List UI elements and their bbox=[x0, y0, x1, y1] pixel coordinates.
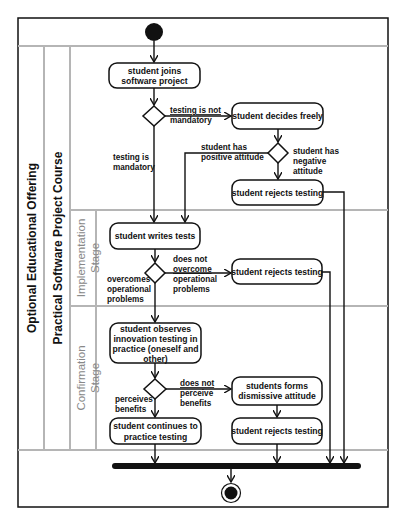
guard-label: student has bbox=[293, 147, 339, 156]
action-label: student rejects testing bbox=[232, 188, 324, 198]
guard-label: problems bbox=[173, 285, 210, 294]
guard-label: overcomes bbox=[107, 275, 151, 284]
guard-label: perceive bbox=[180, 389, 214, 398]
guard-label: testing is not bbox=[170, 106, 221, 115]
action-label: students forms bbox=[246, 381, 308, 391]
guard-label: benefits bbox=[180, 399, 212, 408]
action-label: student decides freely bbox=[232, 111, 323, 121]
action-label: other) bbox=[143, 354, 167, 364]
action-label: practice testing bbox=[124, 432, 188, 442]
stage-confirmation-label-1: Confirmation bbox=[75, 345, 87, 410]
action-label: student observes bbox=[120, 324, 191, 334]
action-label: student joins bbox=[128, 66, 182, 76]
action-label: student writes tests bbox=[115, 231, 196, 241]
guard-label: attitude bbox=[293, 167, 323, 176]
guard-label: problems bbox=[107, 295, 144, 304]
partition-outer-label: Optional Educational Offering bbox=[25, 163, 39, 333]
action-label: student continues to bbox=[113, 421, 198, 431]
guard-label: negative bbox=[293, 157, 327, 166]
stage-implementation-label-2: Stage bbox=[89, 243, 101, 273]
guard-label: operational bbox=[173, 275, 217, 284]
guard-label: does not bbox=[180, 379, 214, 388]
action-label: student rejects testing bbox=[231, 267, 323, 277]
guard-label: testing is bbox=[113, 153, 149, 162]
guard-label: perceives bbox=[115, 395, 153, 404]
guard-label: operational bbox=[107, 285, 151, 294]
stage-implementation-label-1: Implementation bbox=[75, 219, 87, 298]
activity-diagram: Optional Educational Offering Practical … bbox=[0, 0, 404, 525]
guard-label: mandatory bbox=[113, 163, 155, 172]
join-bar bbox=[112, 463, 361, 469]
final-node-core-icon bbox=[225, 487, 238, 500]
guard-label: mandatory bbox=[170, 116, 212, 125]
stage-confirmation-label-2: Stage bbox=[89, 363, 101, 393]
action-label: dismissive attitude bbox=[238, 391, 316, 401]
partition-inner-label: Practical Software Project Course bbox=[51, 151, 65, 344]
guard-label: student has bbox=[201, 143, 247, 152]
guard-label: positive attitude bbox=[201, 153, 264, 162]
action-label: innovation testing in bbox=[113, 334, 197, 344]
guard-label: overcome bbox=[173, 265, 212, 274]
action-label: practice (oneself and bbox=[113, 344, 199, 354]
action-label: software project bbox=[121, 76, 188, 86]
guard-label: does not bbox=[173, 255, 207, 264]
action-label: student rejects testing bbox=[231, 426, 323, 436]
initial-node-icon bbox=[145, 23, 163, 41]
guard-label: benefits bbox=[115, 405, 147, 414]
